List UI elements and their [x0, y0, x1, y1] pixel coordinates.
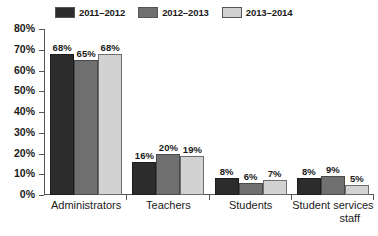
y-axis-tick-label: 20% — [0, 147, 35, 159]
y-axis-tick-label: 40% — [0, 105, 35, 117]
y-axis-tick — [39, 29, 44, 30]
bar: 68% — [98, 54, 122, 195]
bar-value-label: 68% — [53, 42, 72, 53]
category-label: Student servicesstaff — [292, 199, 374, 225]
bar-value-label: 19% — [183, 144, 202, 155]
legend-label: 2012–2013 — [162, 7, 209, 18]
bar-value-label: 8% — [220, 166, 234, 177]
legend-swatch — [222, 7, 242, 18]
bar-value-label: 8% — [302, 166, 316, 177]
bar-value-label: 68% — [101, 42, 120, 53]
bar: 8% — [215, 178, 239, 195]
y-axis-tick-label: 60% — [0, 64, 35, 76]
y-axis-tick-label: 80% — [0, 22, 35, 34]
bar-slot: 65% — [74, 29, 98, 195]
legend-swatch — [138, 7, 158, 18]
bar-value-label: 7% — [268, 168, 282, 179]
bar-slot: 9% — [321, 29, 345, 195]
bar: 19% — [180, 156, 204, 195]
y-axis-tick — [39, 50, 44, 51]
bar-value-label: 20% — [159, 142, 178, 153]
bar: 7% — [263, 180, 287, 195]
bar-value-label: 6% — [244, 171, 258, 182]
legend-entry: 2013–2014 — [222, 7, 293, 18]
y-axis-tick-label: 50% — [0, 84, 35, 96]
bar: 8% — [297, 178, 321, 195]
category-label: Administrators — [45, 199, 127, 225]
bar: 9% — [321, 176, 345, 195]
plot-area: 0%10%20%30%40%50%60%70%80% 68%65%68%16%2… — [44, 29, 374, 195]
bar-value-label: 16% — [135, 150, 154, 161]
bar-slot: 8% — [297, 29, 321, 195]
category-label-line: staff — [292, 212, 374, 225]
bar: 20% — [156, 154, 180, 196]
bar-groups: 68%65%68%16%20%19%8%6%7%8%9%5% — [45, 29, 374, 195]
bar: 68% — [50, 54, 74, 195]
y-axis-tick-label: 30% — [0, 126, 35, 138]
bar: 6% — [239, 183, 263, 195]
bar: 16% — [132, 162, 156, 195]
bar-slot: 6% — [239, 29, 263, 195]
category-label-line: Administrators — [51, 199, 121, 211]
category-label-line: Teachers — [146, 199, 191, 211]
bar: 65% — [74, 60, 98, 195]
bar-slot: 7% — [263, 29, 287, 195]
category-label: Students — [210, 199, 292, 225]
y-axis-tick — [39, 174, 44, 175]
category-axis-labels: AdministratorsTeachersStudentsStudent se… — [45, 199, 374, 225]
bar-value-label: 5% — [350, 173, 364, 184]
bar-chart-figure: 2011–20122012–20132013–2014 0%10%20%30%4… — [0, 0, 378, 236]
category-label-line: Student services — [292, 199, 373, 211]
bar-slot: 16% — [132, 29, 156, 195]
bar-slot: 20% — [156, 29, 180, 195]
bar-group: 8%9%5% — [292, 29, 374, 195]
legend-entry: 2012–2013 — [138, 7, 209, 18]
bar-value-label: 65% — [77, 48, 96, 59]
bar-slot: 19% — [180, 29, 204, 195]
bar-group: 8%6%7% — [210, 29, 292, 195]
y-axis-tick — [39, 91, 44, 92]
y-axis-tick — [39, 133, 44, 134]
chart-legend: 2011–20122012–20132013–2014 — [55, 5, 292, 19]
bar-value-label: 9% — [326, 164, 340, 175]
legend-swatch — [55, 7, 75, 18]
y-axis-tick — [39, 112, 44, 113]
legend-entry: 2011–2012 — [55, 7, 125, 18]
y-axis-tick — [39, 195, 44, 196]
bar-slot: 5% — [345, 29, 369, 195]
bar-group: 16%20%19% — [127, 29, 209, 195]
y-axis-tick-label: 70% — [0, 43, 35, 55]
bar-slot: 68% — [50, 29, 74, 195]
bar-slot: 68% — [98, 29, 122, 195]
legend-label: 2013–2014 — [246, 7, 293, 18]
bar-slot: 8% — [215, 29, 239, 195]
bar: 5% — [345, 185, 369, 195]
y-axis-tick — [39, 71, 44, 72]
legend-label: 2011–2012 — [79, 7, 125, 18]
y-axis-tick-label: 10% — [0, 167, 35, 179]
bar-group: 68%65%68% — [45, 29, 127, 195]
category-label: Teachers — [127, 199, 209, 225]
y-axis-tick — [39, 154, 44, 155]
y-axis-tick-label: 0% — [0, 188, 35, 200]
category-label-line: Students — [229, 199, 272, 211]
